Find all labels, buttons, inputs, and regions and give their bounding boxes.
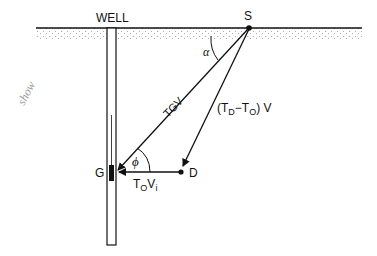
well-bore [107,28,116,245]
diagram-canvas: WELL S D G α ϕ TGV (TD−TO) V TOVi show [0,0,377,256]
ray-s-to-d [183,29,249,166]
vsp-geometry-diagram: WELL S D G α ϕ TGV (TD−TO) V TOVi show [0,0,377,256]
d-label: D [189,166,198,180]
well-label: WELL [96,11,129,25]
alpha-label: α [203,45,210,59]
phi-arc [137,148,150,172]
source-label: S [244,9,252,23]
ground-surface [36,28,362,40]
tovi-label: TOVi [133,177,157,193]
tgv-label: TGV [161,94,186,119]
phi-label: ϕ [132,154,139,169]
svg-text:(TD−TO) V: (TD−TO) V [217,101,272,117]
handwritten-note: show [14,79,38,107]
td-to-v-label: (TD−TO) V [217,101,272,117]
g-label: G [95,166,104,180]
point-d [178,169,183,174]
geophone-marker [109,165,114,181]
svg-text:TOVi: TOVi [133,177,157,193]
